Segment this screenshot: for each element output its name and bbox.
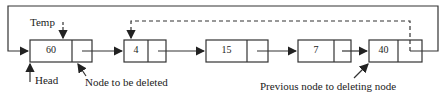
- previous-node-label: Previous node to deleting node: [260, 80, 396, 92]
- node-value-1: 60: [30, 44, 72, 55]
- head-label: Head: [35, 74, 58, 86]
- node-value-5: 40: [369, 44, 398, 55]
- node-to-delete-label: Node to be deleted: [85, 76, 168, 88]
- node-value-3: 15: [206, 44, 247, 55]
- temp-label: Temp: [30, 16, 55, 28]
- node-value-2: 4: [124, 44, 148, 55]
- node-value-4: 7: [298, 44, 334, 55]
